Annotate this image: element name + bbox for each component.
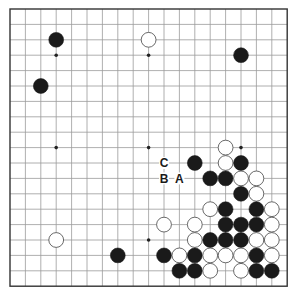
black-stone (110, 248, 125, 263)
black-stone (249, 217, 264, 232)
move-labels: CBA (159, 156, 184, 185)
star-point (54, 146, 58, 150)
star-point (147, 146, 151, 150)
white-stone (234, 171, 249, 186)
white-stone (203, 202, 218, 217)
white-stone (49, 233, 64, 248)
star-point (147, 238, 151, 242)
star-point (147, 53, 151, 57)
black-stone (218, 171, 233, 186)
white-stone (218, 248, 233, 263)
white-stone (264, 202, 279, 217)
black-stone (172, 263, 187, 278)
white-stone (264, 217, 279, 232)
black-stone (234, 48, 249, 63)
black-stone (234, 233, 249, 248)
black-stone (249, 263, 264, 278)
black-stone (49, 32, 64, 47)
go-board: CBA (0, 0, 297, 294)
white-stone (218, 140, 233, 155)
white-stone (187, 217, 202, 232)
black-stone (218, 217, 233, 232)
black-stone (234, 156, 249, 171)
star-point (239, 146, 243, 150)
black-stone (218, 233, 233, 248)
white-stone (157, 217, 172, 232)
white-stone (187, 233, 202, 248)
white-stone (203, 263, 218, 278)
black-stone (187, 248, 202, 263)
black-stone (203, 233, 218, 248)
black-stone (249, 202, 264, 217)
black-stone (249, 248, 264, 263)
white-stone (249, 171, 264, 186)
point-label-c: C (160, 156, 169, 170)
black-stone (234, 217, 249, 232)
star-point (54, 53, 58, 57)
black-stone (264, 263, 279, 278)
white-stone (234, 263, 249, 278)
white-stone (141, 32, 156, 47)
black-stone (187, 263, 202, 278)
white-stone (264, 248, 279, 263)
black-stone (218, 202, 233, 217)
black-stone (187, 156, 202, 171)
point-label-a: A (175, 172, 184, 186)
white-stone (203, 248, 218, 263)
white-stone (264, 233, 279, 248)
point-label-b: B (160, 172, 169, 186)
white-stone (172, 248, 187, 263)
white-stone (249, 233, 264, 248)
black-stone (203, 171, 218, 186)
black-stone (234, 186, 249, 201)
black-stone (33, 79, 48, 94)
white-stone (234, 248, 249, 263)
white-stone (218, 156, 233, 171)
white-stone (249, 186, 264, 201)
stones-layer (33, 32, 279, 278)
black-stone (157, 248, 172, 263)
